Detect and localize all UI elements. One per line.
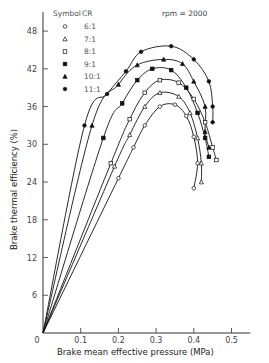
- curve-cr-6-1: [43, 104, 198, 333]
- x-tick-label: 0.4: [187, 336, 200, 345]
- y-tick-label: 48: [27, 27, 37, 36]
- filled-square-marker-icon: [120, 102, 124, 106]
- curve-cr-9-1: [43, 68, 209, 333]
- open-circle-marker-icon: [196, 161, 200, 165]
- filled-square-marker-icon: [196, 111, 200, 115]
- open-square-marker-icon: [158, 78, 162, 82]
- filled-square-marker-icon: [63, 62, 67, 66]
- open-square-marker-icon: [143, 91, 147, 95]
- open-triangle-marker-icon: [63, 37, 67, 41]
- open-triangle-marker-icon: [195, 136, 199, 140]
- open-triangle-marker-icon: [177, 94, 181, 98]
- x-axis-label: Brake mean effective pressure (MPa): [57, 347, 214, 357]
- open-square-marker-icon: [63, 50, 67, 54]
- filled-square-marker-icon: [102, 136, 106, 140]
- filled-square-marker-icon: [184, 86, 188, 90]
- rpm-annotation: rpm = 2000: [162, 9, 208, 18]
- filled-circle-marker-icon: [207, 80, 211, 84]
- open-circle-marker-icon: [63, 25, 67, 29]
- filled-circle-marker-icon: [83, 124, 87, 128]
- open-square-marker-icon: [192, 97, 196, 101]
- y-tick-label: 12: [27, 254, 37, 263]
- open-square-marker-icon: [203, 120, 207, 124]
- filled-square-marker-icon: [203, 136, 207, 140]
- legend-cr-header: CR: [82, 9, 92, 18]
- open-circle-marker-icon: [132, 146, 136, 150]
- open-square-marker-icon: [211, 146, 215, 150]
- filled-triangle-marker-icon: [192, 79, 196, 83]
- chart-svg: 61218243036424800.10.20.30.40.5 SymbolCR…: [0, 0, 269, 363]
- legend-symbol-header: Symbol: [53, 9, 81, 18]
- legend-label: 10:1: [84, 72, 101, 81]
- open-triangle-marker-icon: [113, 164, 117, 168]
- legend: SymbolCR6:17:18:19:110:111:1: [53, 9, 101, 94]
- open-circle-marker-icon: [192, 135, 196, 139]
- open-square-marker-icon: [128, 117, 132, 121]
- open-square-marker-icon: [215, 158, 219, 162]
- legend-label: 7:1: [84, 35, 96, 44]
- x-tick-label: 0.5: [225, 336, 238, 345]
- open-triangle-marker-icon: [128, 133, 132, 137]
- filled-square-marker-icon: [135, 78, 139, 82]
- open-triangle-marker-icon: [188, 111, 192, 115]
- filled-triangle-marker-icon: [180, 62, 184, 66]
- filled-square-marker-icon: [207, 155, 211, 159]
- filled-triangle-marker-icon: [203, 104, 207, 108]
- filled-square-marker-icon: [169, 68, 173, 72]
- filled-circle-marker-icon: [192, 58, 196, 62]
- open-triangle-marker-icon: [199, 180, 203, 184]
- open-square-marker-icon: [177, 81, 181, 85]
- open-circle-marker-icon: [158, 105, 162, 109]
- x-tick-label: 0.3: [150, 336, 163, 345]
- filled-circle-marker-icon: [139, 50, 143, 54]
- y-axis-label: Brake thermal efficiency (%): [9, 129, 19, 250]
- open-circle-marker-icon: [192, 187, 196, 191]
- filled-triangle-marker-icon: [63, 74, 67, 78]
- legend-label: 8:1: [84, 47, 96, 56]
- filled-circle-marker-icon: [105, 92, 109, 96]
- y-tick-label: 18: [27, 216, 37, 225]
- open-square-marker-icon: [109, 161, 113, 165]
- y-tick-label: 36: [27, 103, 37, 112]
- filled-circle-marker-icon: [169, 44, 173, 48]
- x-tick-label: 0: [34, 336, 39, 345]
- data-curves: [43, 46, 216, 333]
- axes: 61218243036424800.10.20.30.40.5: [27, 12, 251, 345]
- filled-circle-marker-icon: [211, 105, 215, 109]
- filled-circle-marker-icon: [63, 87, 67, 91]
- curve-cr-10-1: [43, 59, 209, 333]
- filled-triangle-marker-icon: [90, 123, 94, 127]
- y-tick-label: 6: [32, 291, 37, 300]
- y-tick-label: 42: [27, 65, 37, 74]
- x-tick-label: 0.2: [112, 336, 125, 345]
- filled-triangle-marker-icon: [135, 63, 139, 67]
- x-tick-label: 0.1: [74, 336, 87, 345]
- legend-label: 6:1: [84, 22, 96, 31]
- open-triangle-marker-icon: [199, 161, 203, 165]
- filled-circle-marker-icon: [124, 70, 128, 74]
- filled-circle-marker-icon: [211, 120, 215, 124]
- y-tick-label: 24: [27, 178, 37, 187]
- curve-cr-7-1: [43, 92, 202, 333]
- open-circle-marker-icon: [117, 176, 121, 180]
- open-circle-marker-icon: [173, 103, 177, 107]
- filled-square-marker-icon: [151, 67, 155, 71]
- legend-label: 11:1: [84, 85, 101, 94]
- y-tick-label: 30: [27, 140, 37, 149]
- legend-label: 9:1: [84, 60, 96, 69]
- open-circle-marker-icon: [143, 124, 147, 128]
